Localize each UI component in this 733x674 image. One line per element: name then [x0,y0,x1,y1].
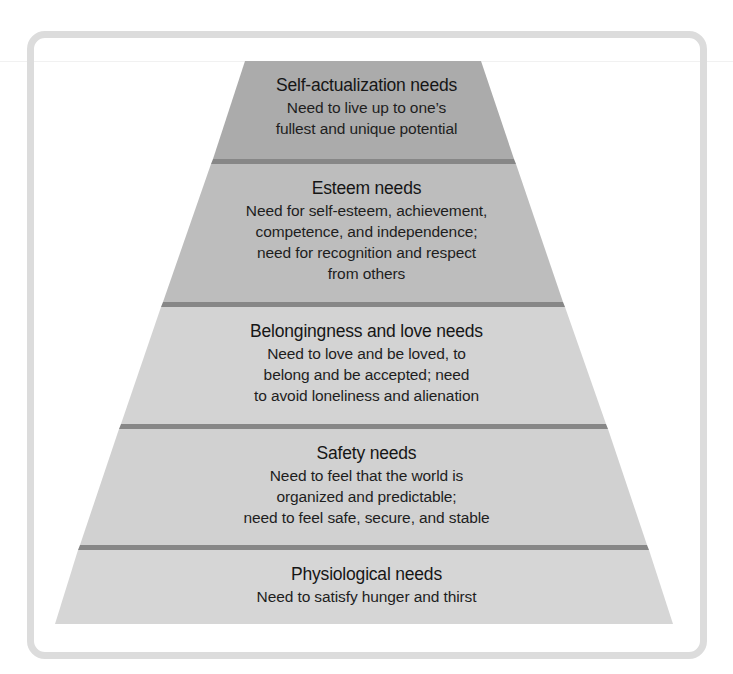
tier-esteem: Esteem needs Need for self-esteem, achie… [0,177,733,284]
tier-title: Physiological needs [0,563,733,585]
tier-safety: Safety needs Need to feel that the world… [0,442,733,528]
tier-belongingness: Belongingness and love needs Need to lov… [0,320,733,406]
tier-title: Safety needs [0,442,733,464]
tier-divider [78,545,649,550]
tier-divider [161,302,565,307]
tier-description: Need to satisfy hunger and thirst [0,586,733,607]
tier-description: Need to feel that the world is organized… [0,465,733,528]
tier-description: Need to live up to one’s fullest and uni… [0,97,733,139]
tier-title: Esteem needs [0,177,733,199]
tier-description: Need to love and be loved, to belong and… [0,343,733,406]
tier-title: Belongingness and love needs [0,320,733,342]
tier-divider [119,424,608,429]
tier-divider [211,159,516,164]
tier-self-actualization: Self-actualization needs Need to live up… [0,74,733,139]
tier-description: Need for self-esteem, achievement, compe… [0,200,733,284]
tier-title: Self-actualization needs [0,74,733,96]
tier-physiological: Physiological needs Need to satisfy hung… [0,563,733,607]
